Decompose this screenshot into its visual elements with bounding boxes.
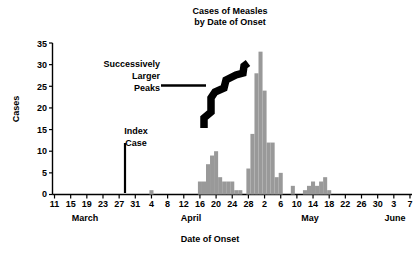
bar [259, 52, 263, 195]
bar [149, 190, 153, 194]
bar [222, 182, 226, 195]
annotation-index-line-2: Case [108, 137, 164, 149]
bar [210, 156, 214, 195]
bar [226, 182, 230, 195]
successively-larger-peaks-curve [204, 63, 248, 128]
bar [230, 182, 234, 195]
bar [307, 186, 311, 195]
bar [327, 190, 331, 194]
bar [206, 164, 210, 194]
annotation-index-line-1: Index [108, 125, 164, 137]
bar [275, 177, 279, 194]
measles-epidemic-curve-chart: Cases of Measles by Date of Onset Cases … [0, 0, 420, 254]
bar [279, 173, 283, 195]
annotation-index-case: Index Case [108, 125, 164, 149]
annotation-peaks-line-1: Successively [60, 58, 160, 70]
bar [311, 182, 315, 195]
bar [246, 169, 250, 195]
bar [234, 190, 238, 194]
annotation-peaks-line-3: Peaks [60, 82, 160, 94]
bar [315, 186, 319, 195]
bar [214, 151, 218, 194]
bar [263, 91, 267, 195]
bar [319, 182, 323, 195]
bar [271, 143, 275, 195]
month-label-june: June [365, 213, 420, 223]
bar [202, 182, 206, 195]
month-label-march: March [55, 213, 115, 223]
annotation-peaks-line-2: Larger [60, 70, 160, 82]
bar [254, 73, 258, 194]
bar [323, 177, 327, 194]
bar [291, 186, 295, 195]
bar [218, 177, 222, 194]
bar [267, 143, 271, 195]
annotation-successively-larger-peaks: Successively Larger Peaks [60, 58, 160, 94]
bar [250, 134, 254, 195]
month-label-may: May [280, 213, 340, 223]
bar [198, 182, 202, 195]
bar [238, 190, 242, 194]
bar [303, 190, 307, 194]
x-tick-label-22: 7 [401, 200, 419, 209]
month-label-april: April [161, 213, 221, 223]
